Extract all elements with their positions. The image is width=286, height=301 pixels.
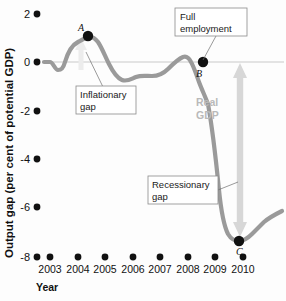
x-tick-dot-2007 (157, 254, 164, 261)
x-tick-label-2009: 2009 (203, 263, 227, 275)
y-tick-label-0: 0 (24, 56, 30, 68)
x-tick-dot-2006 (130, 254, 137, 261)
x-axis-title: Year (36, 281, 58, 293)
y-tick-label-neg8: -8 (20, 251, 30, 263)
x-tick-label-2003: 2003 (38, 263, 62, 275)
annotation-inflationary-gap-line1: Inflationary (80, 89, 127, 100)
data-point-b-label: B (196, 68, 202, 79)
x-tick-dot-2005 (102, 254, 109, 261)
y-tick-dot-neg6 (34, 204, 41, 211)
y-tick-dot-neg8 (34, 254, 41, 261)
annotation-inflationary-gap-line2: gap (80, 101, 96, 112)
x-tick-label-2004: 2004 (66, 263, 90, 275)
x-tick-dot-2009 (212, 254, 219, 261)
y-tick-label-neg2: -2 (20, 105, 30, 117)
chart-svg: Output gap (per cent of potential GDP) 2… (0, 0, 286, 301)
y-tick-label-neg4: -4 (20, 153, 30, 165)
y-tick-label-neg6: -6 (20, 201, 30, 213)
y-tick-dot-neg4 (34, 156, 41, 163)
y-axis-title: Output gap (per cent of potential GDP) (3, 48, 15, 258)
y-tick-dot-2 (34, 11, 41, 18)
x-tick-label-2007: 2007 (148, 263, 172, 275)
x-tick-label-2005: 2005 (93, 263, 117, 275)
output-gap-chart-figure: Output gap (per cent of potential GDP) 2… (0, 0, 286, 301)
data-point-c (234, 236, 244, 246)
y-tick-dot-neg2 (34, 108, 41, 115)
annotation-full-employment-line2: employment (180, 23, 232, 34)
x-tick-label-2006: 2006 (121, 263, 145, 275)
data-point-b (198, 57, 208, 67)
x-tick-label-2008: 2008 (176, 263, 200, 275)
annotation-full-employment-line1: Full (180, 11, 195, 22)
data-point-c-label: C (236, 246, 243, 257)
x-tick-dot-2008 (185, 254, 192, 261)
y-tick-dot-0 (34, 59, 41, 66)
x-tick-dot-2003 (47, 254, 54, 261)
y-tick-label-2: 2 (24, 8, 30, 20)
annotation-recessionary-gap-line1: Recessionary (152, 179, 210, 190)
series-label-real-gdp-line2: GDP (196, 109, 219, 121)
x-tick-label-2010: 2010 (231, 263, 255, 275)
data-point-a (83, 31, 93, 41)
annotation-recessionary-gap-line2: gap (152, 191, 168, 202)
data-point-a-label: A (77, 22, 85, 33)
x-tick-dot-2004 (75, 254, 82, 261)
series-label-real-gdp-line1: Real (196, 96, 218, 108)
